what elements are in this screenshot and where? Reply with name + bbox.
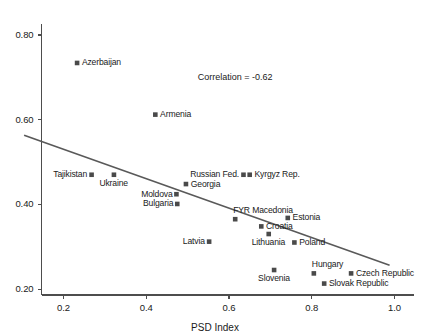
data-point-marker[interactable] — [241, 172, 246, 177]
x-axis-tick-label: 0.2 — [43, 302, 83, 313]
data-point-label: Croatia — [266, 222, 293, 231]
data-point-marker[interactable] — [233, 217, 238, 222]
trend-line — [24, 135, 389, 265]
y-axis-tick-label: 0.40 — [0, 198, 34, 209]
y-axis-tick-label: 0.80 — [0, 29, 34, 40]
data-point-marker[interactable] — [153, 112, 158, 117]
data-point-marker[interactable] — [292, 240, 297, 245]
data-point-label: Ukraine — [99, 179, 128, 188]
data-point-label: Georgia — [191, 180, 221, 189]
data-point-label: Bulgaria — [143, 199, 173, 208]
data-point-label: Lithuania — [252, 238, 286, 247]
x-axis-tick-label: 0.4 — [126, 302, 166, 313]
data-point-marker[interactable] — [259, 224, 264, 229]
data-point-label: Slovak Republic — [329, 279, 388, 288]
data-point-marker[interactable] — [247, 172, 252, 177]
data-point-label: Slovenia — [258, 274, 290, 283]
x-axis-title: PSD Index — [0, 322, 430, 333]
data-point-marker[interactable] — [322, 281, 327, 286]
data-point-label: Tajikistan — [53, 170, 87, 179]
data-point-marker[interactable] — [75, 61, 80, 66]
data-point-marker[interactable] — [349, 271, 354, 276]
data-point-marker[interactable] — [285, 216, 290, 221]
correlation-annotation: Correlation = -0.62 — [198, 72, 273, 82]
data-point-label: Estonia — [293, 213, 321, 222]
data-point-label: Kyrgyz Rep. — [254, 170, 299, 179]
scatter-plot-figure: 0.200.400.600.800.20.40.60.81.0Azerbaija… — [0, 0, 430, 336]
data-point-label: Czech Republic — [356, 269, 414, 278]
data-point-marker[interactable] — [312, 271, 317, 276]
data-point-label: Poland — [299, 238, 325, 247]
x-axis-tick-label: 0.6 — [209, 302, 249, 313]
data-point-marker[interactable] — [266, 232, 271, 237]
data-point-marker[interactable] — [207, 239, 212, 244]
y-axis-tick-label: 0.60 — [0, 114, 34, 125]
data-point-label: Hungary — [312, 260, 343, 269]
data-point-label: FYR Macedonia — [233, 206, 293, 215]
x-axis-tick-label: 0.8 — [292, 302, 332, 313]
data-point-label: Latvia — [183, 237, 205, 246]
data-point-marker[interactable] — [112, 172, 117, 177]
data-point-marker[interactable] — [175, 202, 180, 207]
data-point-label: Armenia — [160, 110, 191, 119]
data-point-marker[interactable] — [184, 182, 189, 187]
data-point-marker[interactable] — [174, 192, 179, 197]
x-axis-tick-label: 1.0 — [375, 302, 415, 313]
data-point-label: Moldova — [141, 190, 172, 199]
y-axis-tick-label: 0.20 — [0, 283, 34, 294]
data-point-marker[interactable] — [89, 172, 94, 177]
data-point-label: Russian Fed. — [190, 170, 239, 179]
data-point-marker[interactable] — [272, 268, 277, 273]
data-point-label: Azerbaijan — [82, 58, 121, 67]
